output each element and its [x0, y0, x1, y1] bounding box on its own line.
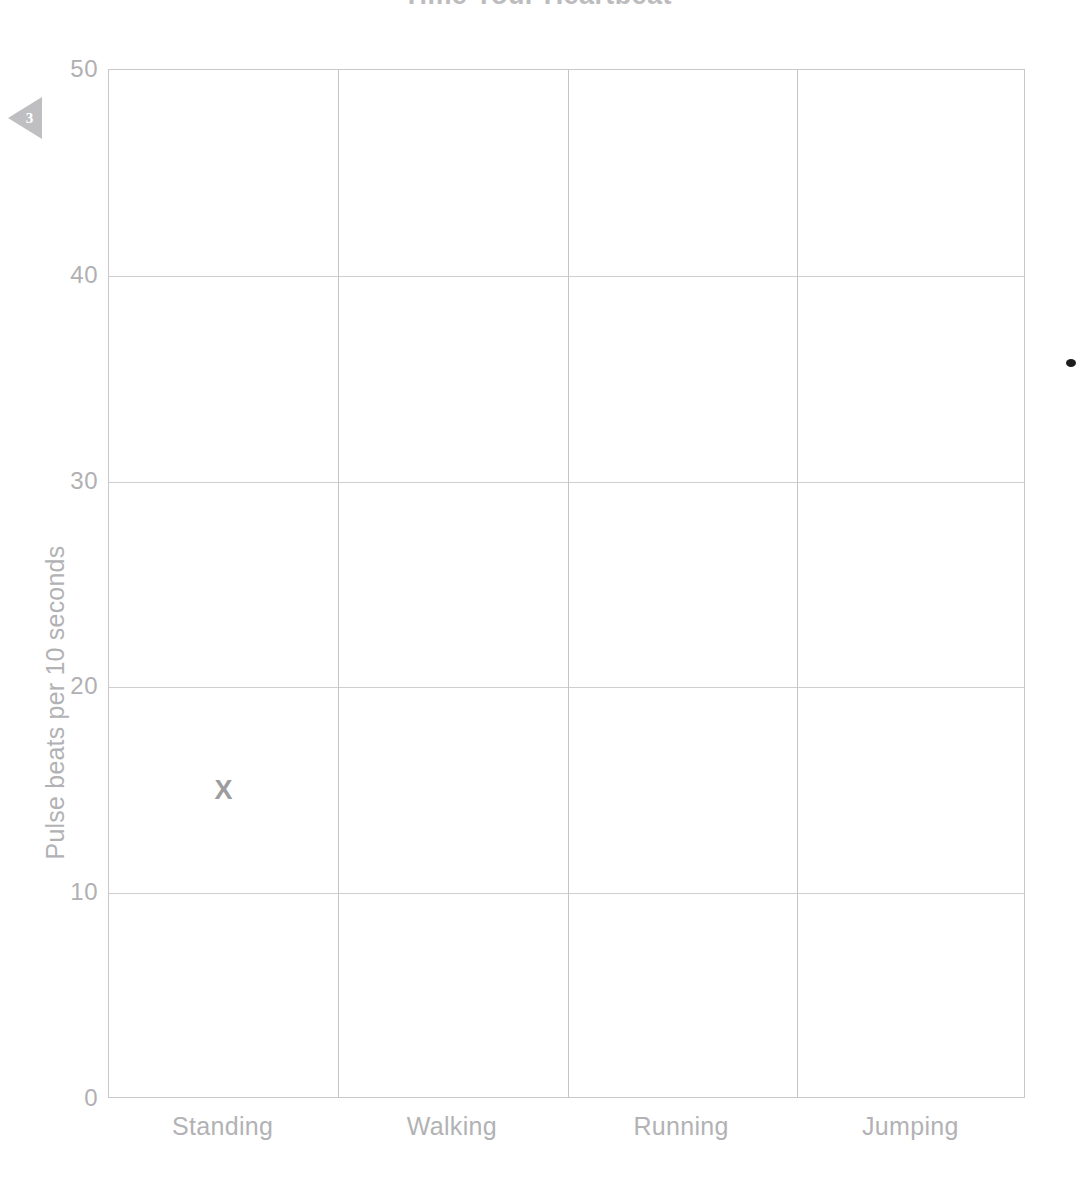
chart-plot-area: X [108, 69, 1025, 1098]
x-axis-tick-label-walking: Walking [337, 1112, 566, 1141]
y-axis-tick-label: 50 [54, 55, 98, 83]
gridline-horizontal [109, 687, 1024, 688]
page-step-marker: 3 [8, 95, 44, 141]
y-axis-tick-label: 40 [54, 261, 98, 289]
y-axis-title: Pulse beats per 10 seconds [41, 353, 70, 1053]
gridline-horizontal [109, 482, 1024, 483]
gridline-vertical [797, 70, 798, 1097]
gridline-vertical [338, 70, 339, 1097]
gridline-horizontal [109, 276, 1024, 277]
x-axis-tick-label-standing: Standing [108, 1112, 337, 1141]
x-axis-tick-label-running: Running [567, 1112, 796, 1141]
y-axis-tick-label: 0 [54, 1084, 98, 1112]
gridline-vertical [568, 70, 569, 1097]
x-axis-tick-label-jumping: Jumping [796, 1112, 1025, 1141]
gridline-horizontal [109, 893, 1024, 894]
ink-dot-icon [1066, 359, 1076, 367]
data-point-marker[interactable]: X [215, 777, 233, 804]
page-title: Time Your Heartbeat [0, 0, 1075, 11]
page-number: 3 [8, 95, 44, 141]
